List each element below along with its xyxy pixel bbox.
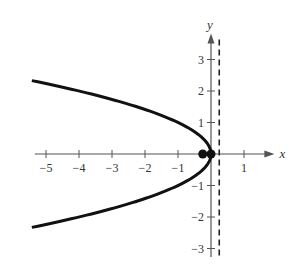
labels: xy [205,17,285,161]
x-axis-arrow-icon [264,151,274,158]
points [198,150,215,159]
vertex-point [207,150,216,159]
curves [32,39,219,257]
x-tick-label: −5 [40,161,53,175]
y-axis-label: y [205,17,213,32]
y-tick-label: −3 [191,242,204,256]
y-tick-label: 1 [198,116,204,130]
x-tick-label: −1 [172,161,185,175]
focus-point [198,150,207,159]
x-tick-label: −3 [106,161,119,175]
axes [35,33,275,257]
y-tick-label: 2 [198,84,204,98]
y-axis-arrow-icon [208,33,215,43]
chart: −5−4−3−2−11321−1−2−3 xy [0,0,302,273]
y-tick-label: 3 [198,53,204,67]
x-tick-label: −2 [139,161,152,175]
y-tick-label: −2 [191,210,204,224]
x-tick-label: 1 [241,161,247,175]
y-tick-label: −1 [191,179,204,193]
x-axis-label: x [278,146,285,161]
x-tick-label: −4 [73,161,86,175]
